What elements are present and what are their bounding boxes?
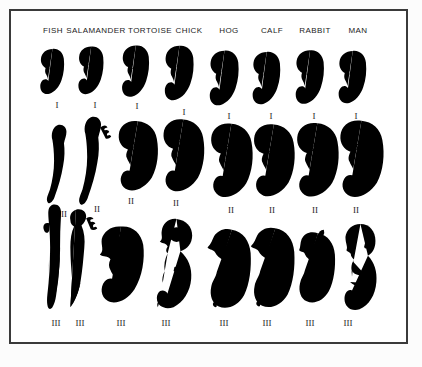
stage-label-tortoise-2: II [128, 197, 134, 206]
column-header-man: MAN [348, 27, 367, 35]
embryo-chick-stage-2 [157, 116, 208, 195]
embryo-hog-stage-1 [207, 47, 253, 115]
stage-label-hog-3: III [220, 319, 229, 328]
column-header-calf: CALF [261, 27, 283, 35]
embryo-man-stage-1 [336, 47, 380, 113]
column-header-salamander: SALAMANDER [66, 27, 126, 35]
embryo-calf-stage-1 [250, 49, 294, 113]
stage-label-rabbit-3: III [306, 319, 315, 328]
column-header-chick: CHICK [175, 27, 202, 35]
stage-label-man-2: II [353, 206, 359, 215]
embryo-man-stage-2 [335, 116, 386, 202]
embryo-fish-stage-1 [38, 46, 76, 102]
embryo-chick-stage-1 [162, 43, 208, 109]
stage-label-salamander-1: I [94, 101, 97, 110]
embryo-salamander-stage-2 [77, 114, 114, 212]
embryo-chick-stage-3 [148, 216, 203, 316]
embryo-tortoise-stage-1 [118, 43, 164, 105]
stage-label-fish-1: I [56, 101, 59, 110]
embryo-tortoise-stage-3 [95, 220, 149, 315]
stage-label-chick-3: III [162, 319, 171, 328]
column-header-rabbit: RABBIT [299, 27, 331, 35]
column-header-fish: FISH [43, 27, 63, 35]
embryo-salamander-stage-1 [76, 44, 116, 102]
embryo-hog-stage-2 [206, 120, 255, 201]
stage-label-man-3: III [344, 319, 353, 328]
stage-label-rabbit-2: II [312, 206, 318, 215]
embryo-tortoise-stage-2 [112, 118, 162, 194]
stage-label-fish-3: III [52, 319, 61, 328]
stage-label-tortoise-1: I [136, 102, 139, 111]
column-header-tortoise: TORTOISE [128, 27, 172, 35]
column-header-hog: HOG [219, 27, 239, 35]
embryo-rabbit-stage-3 [294, 222, 340, 315]
stage-label-calf-2: II [269, 206, 275, 215]
stage-label-chick-2: II [173, 199, 179, 208]
embryo-calf-stage-2 [249, 120, 297, 201]
embryo-rabbit-stage-1 [293, 47, 338, 113]
embryo-calf-stage-3 [248, 222, 299, 315]
embryo-rabbit-stage-2 [292, 118, 341, 202]
stage-label-tortoise-3: III [117, 319, 126, 328]
embryo-man-stage-3 [337, 219, 382, 315]
stage-label-salamander-3: III [76, 319, 85, 328]
stage-label-calf-3: III [263, 319, 272, 328]
stage-label-hog-2: II [228, 206, 234, 215]
